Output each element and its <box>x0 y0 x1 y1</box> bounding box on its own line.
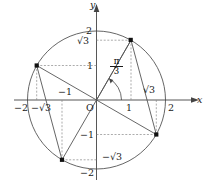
x-axis-label: x <box>197 95 202 105</box>
angle-denominator: 3 <box>110 67 123 76</box>
y-tick-1: 1 <box>87 61 93 71</box>
x-tick-1: 1 <box>126 103 132 113</box>
point-marker <box>35 63 39 67</box>
y-tick-sqrt3: √3 <box>77 36 89 46</box>
x-tick-sqrt3: √3 <box>143 85 155 95</box>
x-tick-neg2: −2 <box>14 103 28 113</box>
point-marker <box>154 132 158 136</box>
point-marker <box>60 158 64 162</box>
y-tick-neg1: −1 <box>80 130 94 140</box>
y-axis-label: y <box>90 0 95 10</box>
angle-label: π 3 <box>110 57 123 76</box>
x-tick-neg-sqrt3: −√3 <box>31 103 51 113</box>
origin-label: O <box>86 103 94 113</box>
angle-numerator: π <box>110 57 123 66</box>
x-tick-2: 2 <box>168 103 174 113</box>
x-tick-neg1: −1 <box>58 87 72 97</box>
y-tick-neg2: −2 <box>80 168 94 178</box>
y-tick-neg-sqrt3: −√3 <box>102 152 122 162</box>
unit-circle-figure: x y O 2 √3 1 −1 −√3 −2 −2 −√3 −1 1 √3 2 … <box>0 0 210 184</box>
point-marker <box>129 38 133 42</box>
